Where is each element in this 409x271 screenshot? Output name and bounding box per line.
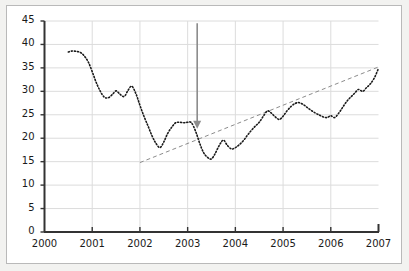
x-tick-label: 2006 xyxy=(313,238,349,249)
y-tick-label: 30 xyxy=(13,84,35,95)
y-tick-label: 15 xyxy=(13,155,35,166)
x-tick-label: 2001 xyxy=(74,238,110,249)
chart-figure: 051015202530354045 200020012002200320042… xyxy=(0,0,409,271)
gridlines-group xyxy=(45,21,379,232)
y-tick-label: 25 xyxy=(13,108,35,119)
y-tick-label: 0 xyxy=(13,225,35,236)
x-tick-label: 2004 xyxy=(217,238,253,249)
annotation-group xyxy=(193,23,201,128)
observed-data-series xyxy=(68,51,378,159)
y-tick-label: 45 xyxy=(13,14,35,25)
x-tick-label: 2005 xyxy=(265,238,301,249)
y-tick-label: 20 xyxy=(13,131,35,142)
y-tick-label: 35 xyxy=(13,61,35,72)
y-tick-label: 5 xyxy=(13,202,35,213)
y-tick-label: 40 xyxy=(13,37,35,48)
x-tick-label: 2000 xyxy=(27,238,63,249)
x-tick-label: 2002 xyxy=(122,238,158,249)
y-tick-label: 10 xyxy=(13,178,35,189)
x-tick-label: 2007 xyxy=(361,238,397,249)
x-tick-label: 2003 xyxy=(170,238,206,249)
chart-plot-area xyxy=(0,0,409,271)
